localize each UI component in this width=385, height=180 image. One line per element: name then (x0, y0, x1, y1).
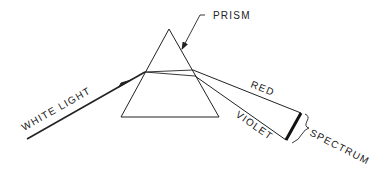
red-ray (193, 70, 301, 113)
violet-label: VIOLET (234, 109, 275, 143)
prism-shape (121, 29, 219, 117)
spectrum-brace (292, 114, 309, 143)
prism-diagram: PRISM WHITE LIGHT RED VIOLET SPECTRUM (0, 0, 385, 180)
red-label: RED (249, 79, 276, 98)
spectrum-bar (286, 113, 301, 140)
red-ray-inside (145, 70, 193, 72)
prism-label: PRISM (213, 10, 251, 21)
white-light-arrow-icon (119, 80, 131, 87)
prism-leader-line (182, 15, 205, 49)
spectrum-label: SPECTRUM (308, 127, 372, 167)
violet-ray-inside (145, 72, 195, 76)
